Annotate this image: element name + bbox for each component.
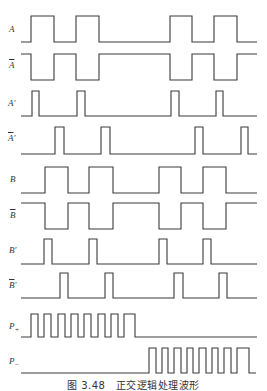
waveform-p-minus — [21, 348, 256, 373]
signal-label-b: B — [10, 175, 16, 184]
signal-label-a-bar: A — [9, 61, 15, 70]
signal-label-a: A — [9, 25, 15, 34]
waveform-b-bar — [21, 203, 257, 229]
waveform-a-bar — [21, 54, 257, 80]
waveform-b — [21, 167, 257, 193]
waveform-b-prime — [21, 239, 257, 264]
signal-label-a-prime: A′ — [8, 99, 15, 108]
waveform-figure: AAA′A′BBB′B′P+P− 图 3.48 正交逻辑处理波形 — [0, 0, 267, 391]
signal-label-b-prime: B′ — [9, 246, 16, 255]
figure-caption: 图 3.48 正交逻辑处理波形 — [0, 377, 267, 391]
signal-label-p-plus: P+ — [9, 322, 19, 334]
waveform-a-bar-prime — [21, 127, 257, 154]
waveform-a-prime — [21, 91, 257, 116]
waveform-canvas — [0, 0, 267, 391]
signal-label-b-bar-prime: B′ — [9, 281, 16, 290]
waveform-a — [21, 16, 257, 42]
signal-label-p-minus: P− — [9, 357, 19, 369]
waveform-b-bar-prime — [21, 273, 257, 298]
signal-label-b-bar: B — [10, 211, 16, 220]
waveform-p-plus — [21, 314, 257, 337]
signal-label-a-bar-prime: A′ — [8, 134, 15, 143]
